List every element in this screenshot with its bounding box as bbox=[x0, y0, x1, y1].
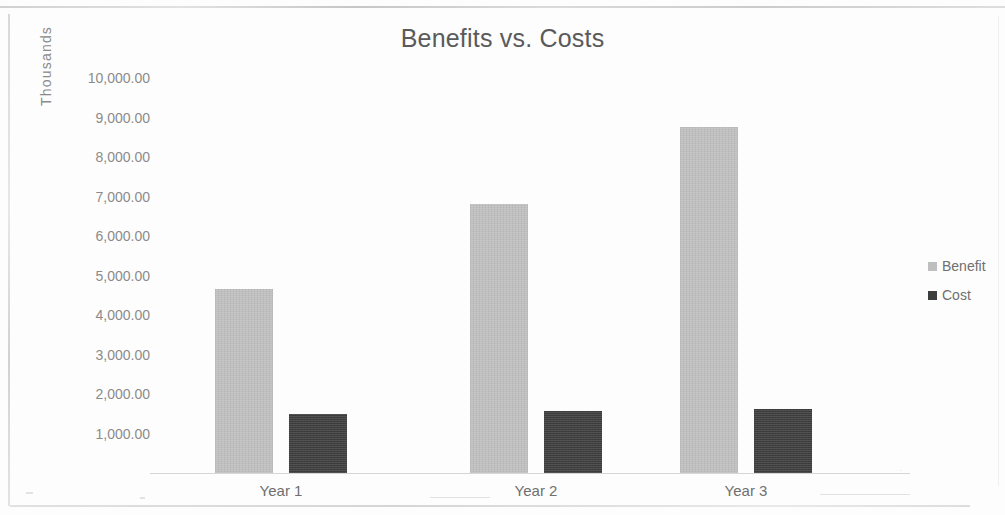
chart-title: Benefits vs. Costs bbox=[0, 24, 1005, 53]
y-axis-tick-label: 9,000.00 bbox=[58, 110, 150, 126]
y-axis-tick-label: 5,000.00 bbox=[58, 268, 150, 284]
x-axis-category-label: Year 1 bbox=[260, 482, 303, 499]
y-axis-tick-label: 7,000.00 bbox=[58, 189, 150, 205]
y-axis-tick-labels: 10,000.009,000.008,000.007,000.006,000.0… bbox=[58, 0, 150, 515]
bar-cost-year-2 bbox=[544, 411, 602, 473]
scan-grain bbox=[754, 409, 812, 473]
legend-item-cost[interactable]: Cost bbox=[928, 287, 1002, 303]
x-axis-category-label: Year 3 bbox=[725, 482, 768, 499]
bar-cost-year-3 bbox=[754, 409, 812, 473]
y-axis-tick-label: 8,000.00 bbox=[58, 149, 150, 165]
bar-benefit-year-2 bbox=[470, 204, 528, 473]
scan-grain bbox=[289, 414, 347, 473]
scan-grain bbox=[680, 127, 738, 473]
scan-grain bbox=[215, 289, 273, 473]
legend-swatch-icon bbox=[928, 262, 937, 271]
y-axis-tick-label: 6,000.00 bbox=[58, 228, 150, 244]
legend-label: Benefit bbox=[942, 258, 986, 274]
chart-legend: BenefitCost bbox=[928, 258, 1002, 316]
legend-item-benefit[interactable]: Benefit bbox=[928, 258, 1002, 274]
legend-swatch-icon bbox=[928, 291, 937, 300]
x-axis-line bbox=[150, 473, 910, 474]
y-axis-tick-label: 3,000.00 bbox=[58, 347, 150, 363]
y-axis-tick-label: 10,000.00 bbox=[58, 70, 150, 86]
y-axis-title: Thousands bbox=[38, 0, 54, 106]
y-axis-tick-label: 4,000.00 bbox=[58, 307, 150, 323]
y-axis-tick-label: 1,000.00 bbox=[58, 426, 150, 442]
bar-cost-year-1 bbox=[289, 414, 347, 473]
plot-area bbox=[150, 60, 910, 473]
bar-benefit-year-3 bbox=[680, 127, 738, 473]
scan-grain bbox=[470, 204, 528, 473]
scan-grain bbox=[544, 411, 602, 473]
bar-chart: Benefits vs. Costs Thousands 10,000.009,… bbox=[0, 0, 1005, 515]
legend-label: Cost bbox=[942, 287, 971, 303]
bar-benefit-year-1 bbox=[215, 289, 273, 473]
x-axis-category-label: Year 2 bbox=[515, 482, 558, 499]
y-axis-tick-label: 2,000.00 bbox=[58, 386, 150, 402]
